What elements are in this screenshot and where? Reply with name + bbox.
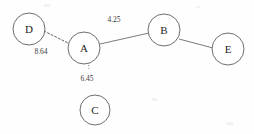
node-b[interactable]: B bbox=[148, 14, 180, 46]
node-a[interactable]: A bbox=[68, 32, 100, 64]
edge-label-a-b: 4.25 bbox=[107, 15, 120, 24]
node-c[interactable]: C bbox=[80, 95, 110, 125]
node-d-label: D bbox=[25, 23, 33, 35]
node-a-label: A bbox=[80, 42, 88, 54]
node-c-label: C bbox=[91, 104, 98, 116]
edge-label-d-a: 8.64 bbox=[34, 47, 47, 56]
edge-a-b[interactable] bbox=[100, 33, 149, 44]
node-e[interactable]: E bbox=[212, 33, 244, 65]
node-b-label: B bbox=[160, 24, 167, 36]
edge-b-e[interactable] bbox=[179, 39, 213, 48]
node-d[interactable]: D bbox=[13, 13, 45, 45]
graph-diagram-canvas: 8.64 4.25 6.45 D A B E bbox=[0, 0, 254, 134]
node-e-label: E bbox=[225, 43, 232, 55]
edge-label-a-c: 6.45 bbox=[80, 74, 93, 83]
node-layer: D A B E C bbox=[13, 13, 244, 125]
graph-svg: 8.64 4.25 6.45 D A B E bbox=[0, 0, 254, 134]
edge-d-a[interactable] bbox=[44, 31, 70, 44]
